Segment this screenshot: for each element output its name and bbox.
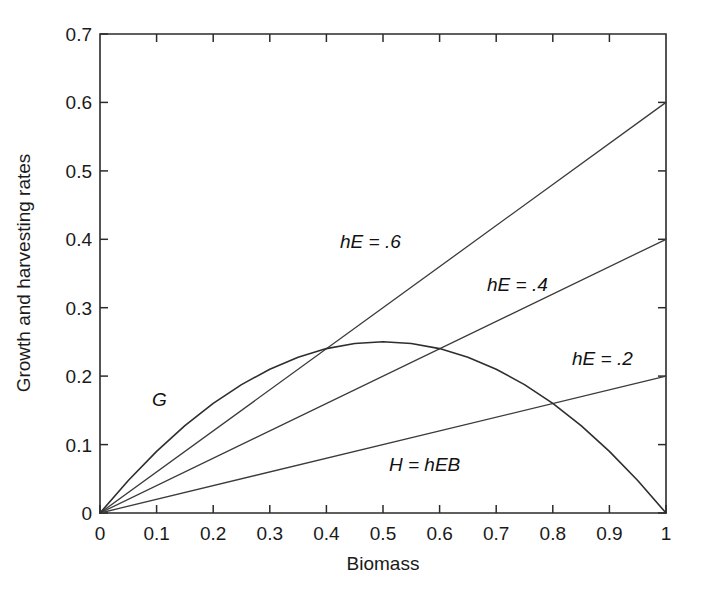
y-tick-label: 0.6	[66, 92, 92, 113]
line-label-04: hE = .4	[487, 274, 548, 295]
x-axis-ticks	[100, 34, 666, 513]
x-axis-title: Biomass	[347, 553, 420, 574]
x-tick-label: 0	[95, 523, 106, 544]
y-axis-title: Growth and harvesting rates	[13, 154, 34, 393]
y-tick-label: 0.7	[66, 24, 92, 45]
x-tick-label: 0.4	[313, 523, 340, 544]
x-tick-label: 0.3	[257, 523, 283, 544]
y-tick-label: 0	[81, 503, 92, 524]
x-tick-label: 0.1	[143, 523, 169, 544]
plot-box-border	[100, 34, 666, 513]
x-tick-label: 0.2	[200, 523, 226, 544]
harvest-line-06	[100, 102, 666, 513]
growth-harvesting-plot: 0 0.1 0.2 0.3 0.4 0.5 0.6 0.7	[0, 0, 706, 593]
harvest-line-04	[100, 239, 666, 513]
line-label-02: hE = .2	[572, 348, 633, 369]
y-tick-label: 0.5	[66, 161, 92, 182]
line-label-06: hE = .6	[340, 231, 401, 252]
x-tick-label: 0.6	[426, 523, 452, 544]
x-tick-label: 0.9	[596, 523, 622, 544]
x-axis-tick-labels: 0 0.1 0.2 0.3 0.4 0.5 0.6 0.7 0.8 0.9 1	[95, 523, 672, 544]
harvest-line-02	[100, 376, 666, 513]
y-tick-label: 0.2	[66, 366, 92, 387]
x-tick-label: 1	[661, 523, 672, 544]
growth-curve-label: G	[152, 389, 167, 410]
y-axis-tick-labels: 0 0.1 0.2 0.3 0.4 0.5 0.6 0.7	[66, 24, 93, 524]
y-tick-label: 0.1	[66, 435, 92, 456]
harvest-formula-label: H = hEB	[389, 454, 461, 475]
figure-container: 0 0.1 0.2 0.3 0.4 0.5 0.6 0.7	[0, 0, 706, 593]
x-tick-label: 0.7	[483, 523, 509, 544]
figure-caption-sliver	[0, 581, 706, 593]
y-tick-label: 0.3	[66, 298, 92, 319]
y-tick-label: 0.4	[66, 229, 93, 250]
y-axis-ticks	[100, 34, 666, 513]
x-tick-label: 0.5	[370, 523, 396, 544]
x-tick-label: 0.8	[540, 523, 566, 544]
axis-frame	[100, 34, 666, 513]
